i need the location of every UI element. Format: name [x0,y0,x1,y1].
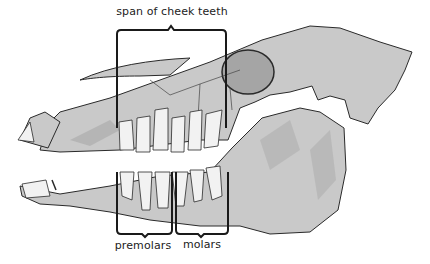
orbit [222,50,274,94]
premolars-label: premolars [113,239,173,252]
molars-label: molars [176,238,228,251]
lower-incisors [22,180,50,198]
horse-skull-diagram [0,0,430,264]
span-of-cheek-teeth-label: span of cheek teeth [112,5,232,18]
